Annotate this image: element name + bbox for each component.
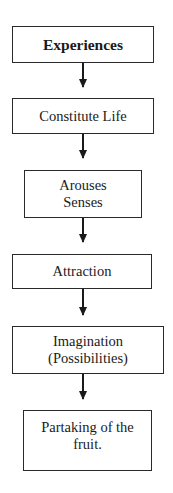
node-constitute-life: Constitute Life bbox=[12, 98, 154, 134]
node-label: Attraction bbox=[53, 263, 112, 280]
arrow-down-icon bbox=[82, 134, 84, 158]
arrow-down-icon bbox=[82, 289, 84, 315]
arrow-down-icon bbox=[82, 374, 84, 399]
node-label: Arouses Senses bbox=[43, 177, 123, 211]
node-label: Imagination (Possibilities) bbox=[33, 333, 143, 367]
node-attraction: Attraction bbox=[12, 254, 152, 289]
node-label: Partaking of the fruit. bbox=[28, 419, 147, 453]
node-label: Experiences bbox=[43, 36, 123, 53]
node-partaking: Partaking of the fruit. bbox=[23, 410, 152, 471]
node-arouses-senses: Arouses Senses bbox=[24, 170, 142, 218]
node-label: Constitute Life bbox=[39, 108, 126, 125]
arrow-down-icon bbox=[82, 63, 84, 87]
arrow-down-icon bbox=[82, 218, 84, 242]
node-experiences: Experiences bbox=[12, 26, 154, 63]
node-imagination: Imagination (Possibilities) bbox=[12, 326, 164, 374]
